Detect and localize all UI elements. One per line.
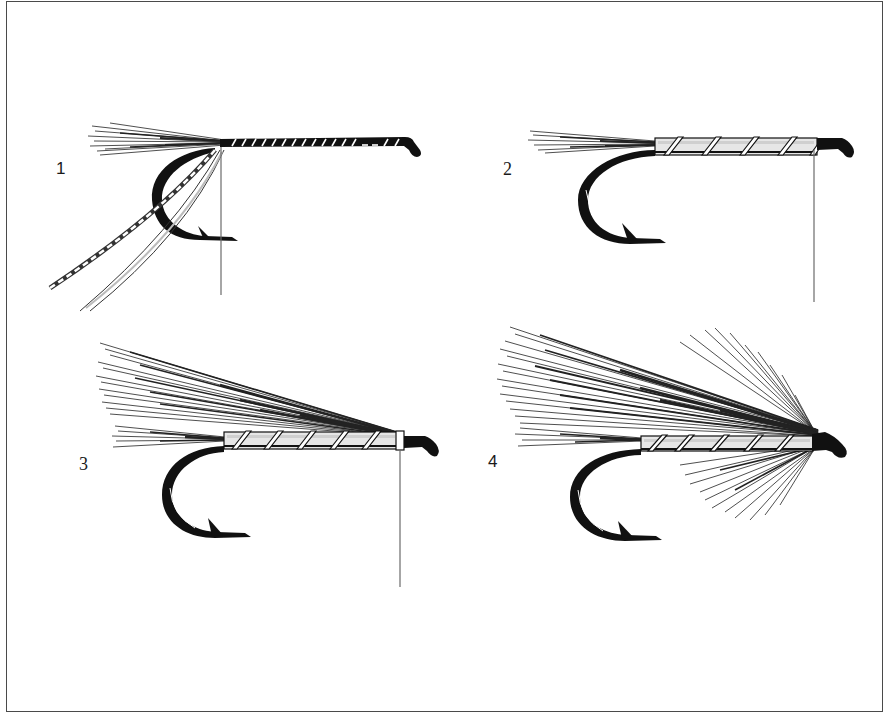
step-3-body-icon [224, 431, 439, 456]
step-3-tail-icon [112, 426, 225, 447]
step-2-illustration [528, 131, 854, 302]
step-1-ribbing-icon [50, 150, 224, 311]
step-1-illustration [50, 123, 421, 311]
step-4-hackle-throat-icon [680, 445, 815, 520]
step-label-2: 2 [503, 160, 512, 178]
fly-tying-diagram [0, 0, 889, 719]
step-2-tail-icon [528, 131, 655, 153]
step-label-1: 1 [56, 160, 65, 177]
step-1-shank-icon [220, 137, 421, 157]
step-2-hook-icon [578, 150, 666, 244]
step-3-hook-icon [162, 446, 251, 538]
step-label-3: 3 [79, 455, 88, 473]
step-3-wing-icon [96, 343, 400, 436]
step-3-illustration [96, 343, 439, 587]
step-4-hook-icon [570, 449, 662, 541]
step-4-tail-icon [515, 428, 642, 446]
step-4-wing-icon [497, 327, 818, 436]
step-4-body-icon [641, 432, 847, 458]
step-4-illustration [497, 327, 847, 541]
step-label-4: 4 [488, 453, 497, 470]
step-2-body-icon [655, 137, 854, 158]
